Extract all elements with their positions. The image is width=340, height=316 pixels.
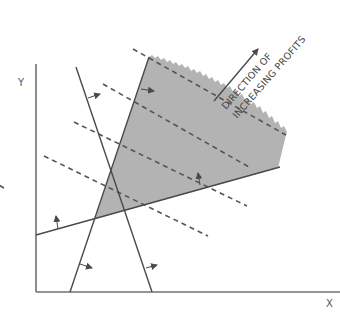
constraint-arrow-icon bbox=[80, 264, 92, 268]
x-axis-label: X bbox=[326, 298, 333, 309]
constraint-arrow-icon bbox=[88, 94, 100, 98]
lp-diagram: DIRECTION OF INCREASING PROFITS Y X bbox=[0, 0, 340, 316]
y-axis-label: Y bbox=[17, 77, 25, 88]
iso-profit-line-1 bbox=[0, 180, 4, 188]
constraint-arrow-icon bbox=[56, 216, 58, 229]
constraint-arrow-icon bbox=[146, 265, 157, 268]
